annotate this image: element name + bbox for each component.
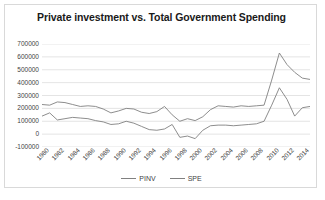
y-axis-tick-label: 0 <box>35 131 39 138</box>
y-axis-tick-label: 200000 <box>17 105 39 112</box>
x-axis: 1980198219841986198819901992199419961998… <box>42 148 314 178</box>
x-axis-tick-label: 2008 <box>250 147 265 162</box>
legend-line-swatch <box>170 178 185 179</box>
legend-label: SPE <box>188 175 202 182</box>
y-axis-tick-label: 600000 <box>17 54 39 61</box>
x-axis-tick-label: 1986 <box>82 147 97 162</box>
chart-legend: PINVSPE <box>5 175 318 182</box>
chart-container: Private investment vs. Total Government … <box>4 4 317 188</box>
y-axis-tick-label: 400000 <box>17 79 39 86</box>
legend-label: PINV <box>139 175 155 182</box>
y-axis-tick-label: 300000 <box>17 92 39 99</box>
x-axis-tick-label: 1990 <box>112 147 127 162</box>
plot-area <box>42 44 310 147</box>
x-axis-tick-label: 2014 <box>296 147 311 162</box>
series-line-spe <box>42 53 310 121</box>
x-axis-tick-label: 1988 <box>97 147 112 162</box>
x-axis-tick-label: 1992 <box>128 147 143 162</box>
x-axis-tick-label: 2002 <box>204 147 219 162</box>
legend-item-spe[interactable]: SPE <box>170 175 202 182</box>
x-axis-tick-label: 2006 <box>235 147 250 162</box>
legend-line-swatch <box>121 178 136 179</box>
y-axis-tick-label: -100000 <box>15 144 39 151</box>
chart-title: Private investment vs. Total Government … <box>5 11 318 23</box>
x-axis-tick-label: 1982 <box>51 147 66 162</box>
x-axis-tick-label: 1994 <box>143 147 158 162</box>
plot-svg <box>42 44 310 147</box>
x-axis-tick-label: 2004 <box>219 147 234 162</box>
y-axis-tick-label: 500000 <box>17 67 39 74</box>
x-axis-tick-label: 2000 <box>189 147 204 162</box>
x-axis-tick-label: 1984 <box>66 147 81 162</box>
x-axis-tick-label: 2010 <box>265 147 280 162</box>
legend-item-pinv[interactable]: PINV <box>121 175 155 182</box>
x-axis-tick-label: 1998 <box>173 147 188 162</box>
y-axis-tick-label: 100000 <box>17 118 39 125</box>
y-axis: 7000006000005000004000003000002000001000… <box>5 38 39 153</box>
x-axis-tick-label: 2012 <box>281 147 296 162</box>
y-axis-tick-label: 700000 <box>17 41 39 48</box>
x-axis-tick-label: 1996 <box>158 147 173 162</box>
